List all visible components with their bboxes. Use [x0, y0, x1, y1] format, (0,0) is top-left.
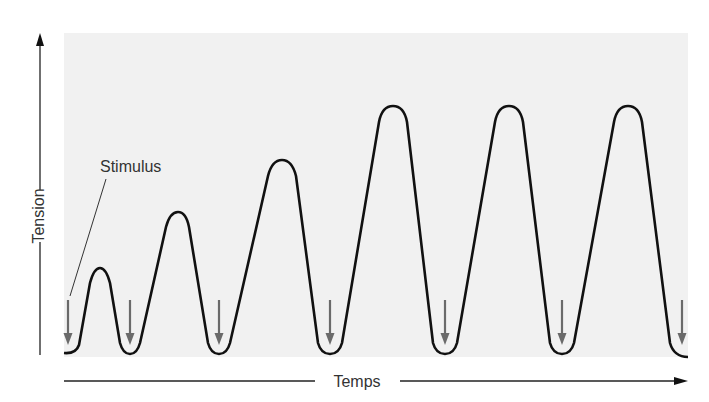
plot-background — [64, 33, 688, 357]
x-axis-arrowhead-icon — [674, 377, 688, 385]
x-axis-label: Temps — [333, 373, 380, 390]
x-axis: Temps — [64, 373, 688, 390]
stimulus-label: Stimulus — [100, 158, 161, 175]
y-axis-arrowhead-icon — [36, 33, 44, 46]
twitch-summation-diagram: Tension Temps Stimulus — [0, 0, 709, 402]
y-axis-label: Tension — [30, 188, 47, 243]
y-axis: Tension — [30, 33, 47, 355]
